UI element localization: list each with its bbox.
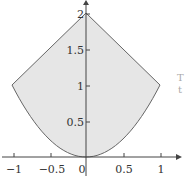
y-tick-label: 2 <box>77 8 84 21</box>
y-tick-label: 1 <box>77 80 84 93</box>
y-axis-arrow-icon <box>83 0 89 5</box>
cropped-text: T <box>177 72 184 83</box>
y-tick-label: 0.5 <box>67 116 85 129</box>
x-tick-label: −1 <box>6 163 22 176</box>
y-tick-label: 1.5 <box>67 44 85 57</box>
plot: −1 −0.5 0 0.5 1 0.5 1 1.5 2 <box>0 0 185 181</box>
x-axis-arrow-icon <box>176 154 182 160</box>
chart: −1 −0.5 0 0.5 1 0.5 1 1.5 2 T t <box>0 0 185 181</box>
x-tick-label: −0.5 <box>39 163 66 176</box>
x-tick-label: 0 <box>79 163 86 176</box>
x-tick-label: 1 <box>158 163 165 176</box>
x-tick-label: 0.5 <box>115 163 133 176</box>
cropped-text: t <box>178 84 182 95</box>
